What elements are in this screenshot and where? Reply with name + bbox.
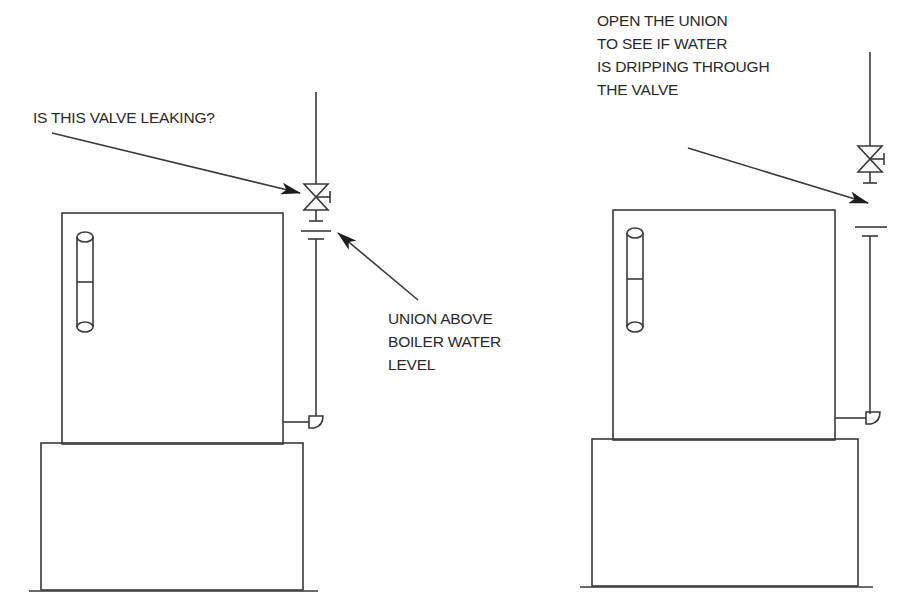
- label-valve-leaking: IS THIS VALVE LEAKING?: [33, 108, 215, 127]
- right-base: [580, 439, 873, 587]
- label-open-union-line-4: THE VALVE: [597, 80, 678, 99]
- label-union-line-3: LEVEL: [388, 355, 435, 374]
- arrow-to-union-gap: [688, 148, 868, 203]
- label-open-union-line-2: TO SEE IF WATER: [597, 34, 727, 53]
- label-open-union-line-1: OPEN THE UNION: [597, 11, 727, 30]
- boiler-diagrams: [0, 0, 912, 614]
- diagram-canvas: IS THIS VALVE LEAKING? UNION ABOVE BOILE…: [0, 0, 912, 614]
- arrow-to-union: [338, 233, 418, 300]
- label-union-line-2: BOILER WATER: [388, 332, 501, 351]
- left-base: [29, 443, 318, 591]
- label-union-line-1: UNION ABOVE: [388, 309, 493, 328]
- right-piping: [835, 52, 887, 424]
- left-piping: [283, 92, 331, 428]
- arrow-to-valve: [52, 133, 300, 193]
- label-open-union-line-3: IS DRIPPING THROUGH: [597, 57, 769, 76]
- left-boiler: [62, 213, 283, 444]
- right-boiler: [613, 210, 835, 440]
